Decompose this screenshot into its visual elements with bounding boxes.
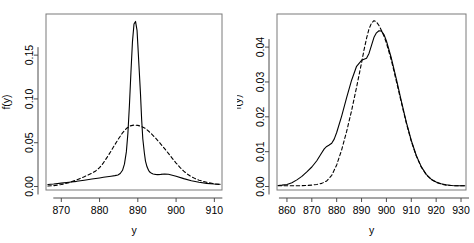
figure-container: 8708808909009100.000.050.100.15yf(y) 860… [0, 0, 474, 243]
x-tick-label-left-3: 900 [167, 204, 185, 216]
x-tick-label-left-0: 870 [53, 204, 71, 216]
x-tick-label-right-6: 920 [427, 204, 445, 216]
y-tick-label-right-0: 0.00 [254, 176, 266, 197]
x-tick-label-right-3: 890 [353, 204, 371, 216]
y-tick-label-left-0: 0.00 [23, 176, 35, 197]
x-tick-label-right-7: 930 [452, 204, 470, 216]
series-right-solid [278, 31, 465, 186]
y-axis-title-left: f(y) [0, 94, 12, 109]
x-tick-label-right-2: 880 [328, 204, 346, 216]
chart-panel-left: 8708808909009100.000.050.100.15yf(y) [0, 0, 237, 243]
x-tick-label-left-2: 890 [129, 204, 147, 216]
y-tick-label-right-2: 0.02 [254, 106, 266, 127]
plot-right: 8608708808909009109209300.000.010.020.03… [237, 0, 474, 243]
x-tick-label-left-1: 880 [91, 204, 109, 216]
y-tick-label-left-1: 0.05 [23, 132, 35, 153]
x-tick-label-right-4: 900 [378, 204, 396, 216]
x-axis-title-right: y [369, 224, 375, 236]
y-tick-label-right-1: 0.01 [254, 141, 266, 162]
series-left-solid [48, 21, 220, 184]
plot-box-left [46, 14, 222, 190]
chart-panel-right: 8608708808909009109209300.000.010.020.03… [237, 0, 474, 243]
plot-left: 8708808909009100.000.050.100.15yf(y) [0, 0, 237, 243]
x-tick-label-left-4: 910 [206, 204, 224, 216]
x-tick-label-right-1: 870 [303, 204, 321, 216]
y-tick-label-right-3: 0.03 [254, 72, 266, 93]
x-tick-label-right-5: 910 [403, 204, 421, 216]
y-tick-label-left-2: 0.10 [23, 89, 35, 110]
y-tick-label-right-4: 0.04 [254, 37, 266, 58]
x-axis-title-left: y [131, 224, 137, 236]
x-tick-label-right-0: 860 [278, 204, 296, 216]
plot-box-right [277, 14, 466, 190]
y-tick-label-left-3: 0.15 [23, 45, 35, 66]
y-axis-title-right: f(y) [237, 94, 243, 109]
series-left-dashed [48, 125, 220, 186]
